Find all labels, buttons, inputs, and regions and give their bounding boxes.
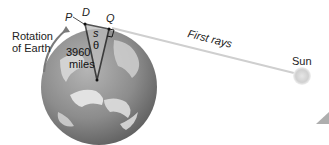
- point-p-label: P: [65, 11, 72, 23]
- radius-unit-label: miles: [69, 58, 95, 70]
- rotation-label-line1: Rotation: [12, 30, 53, 42]
- angle-theta-label: θ: [93, 39, 99, 51]
- point-q-dot: [108, 28, 111, 31]
- point-d-dot: [84, 23, 87, 26]
- point-d-label: D: [82, 6, 90, 18]
- p-pointer: [73, 17, 84, 24]
- rotation-label-line2: of Earth: [12, 42, 51, 54]
- radius-value-label: 3960: [66, 46, 90, 58]
- sun-label: Sun: [292, 55, 312, 67]
- earth-sun-diagram: Rotation of Earth P D Q s θ 3960 miles F…: [0, 0, 329, 145]
- center-dot: [96, 79, 99, 82]
- rotation-arrowhead-icon: [62, 26, 70, 33]
- corner-shape: [316, 112, 329, 124]
- arc-length-label: s: [93, 27, 99, 39]
- sun-icon: [293, 67, 311, 85]
- diagram-canvas: [0, 0, 329, 145]
- point-q-label: Q: [106, 12, 115, 24]
